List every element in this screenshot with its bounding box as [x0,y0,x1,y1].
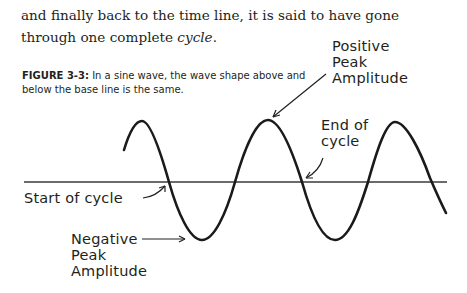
end-of-cycle-arrow [306,158,323,178]
negative-peak-label: Negative Peak Amplitude [71,231,147,279]
start-of-cycle-label: Start of cycle [24,190,123,206]
negative-peak-arrow [142,236,185,242]
positive-peak-label: Positive Peak Amplitude [332,38,408,86]
sine-wave [124,120,446,240]
end-of-cycle-label: End of cycle [321,117,368,149]
start-of-cycle-arrow [143,186,165,198]
positive-peak-arrow [273,74,326,117]
